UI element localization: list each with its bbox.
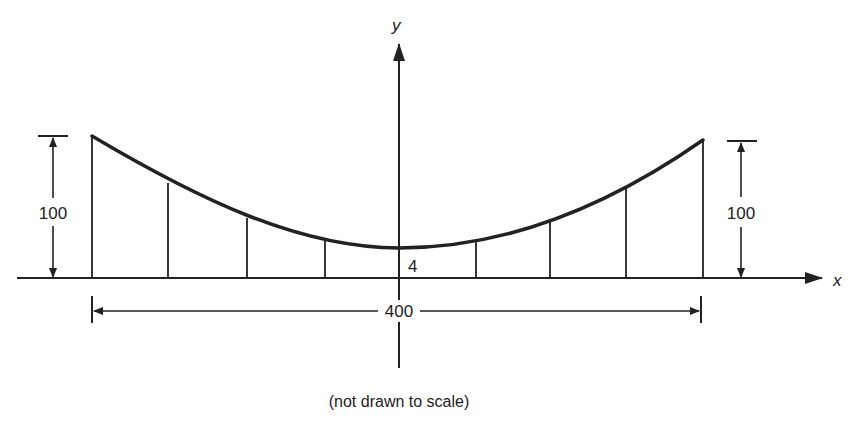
y-axis-label: y bbox=[391, 16, 402, 35]
x-axis: x bbox=[17, 271, 842, 290]
left-height-label: 100 bbox=[39, 204, 67, 223]
span-dimension: 400 bbox=[92, 296, 701, 323]
caption: (not drawn to scale) bbox=[329, 393, 470, 410]
left-height-dimension: 100 bbox=[38, 136, 68, 277]
hangers bbox=[92, 136, 703, 278]
sag-label: 4 bbox=[408, 257, 417, 276]
span-label: 400 bbox=[385, 302, 413, 321]
right-height-label: 100 bbox=[727, 204, 755, 223]
cable-diagram: x y 4 100 100 400 bbox=[0, 0, 863, 423]
cable-curve bbox=[92, 136, 703, 248]
x-axis-label: x bbox=[832, 271, 842, 290]
right-height-dimension: 100 bbox=[727, 141, 757, 277]
